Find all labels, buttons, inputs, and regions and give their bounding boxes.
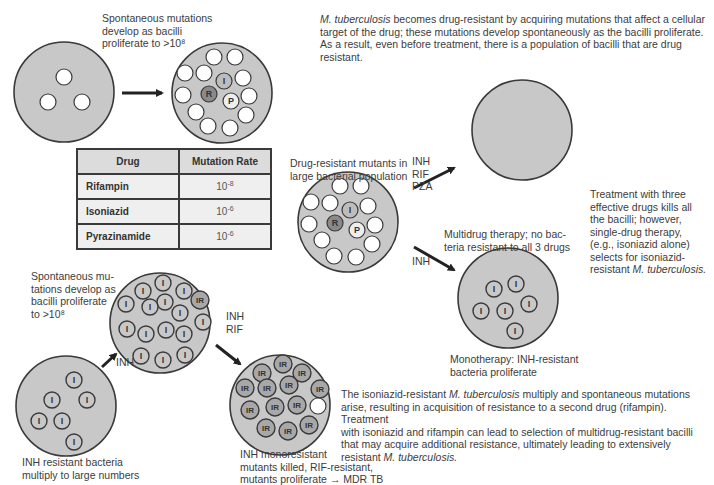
- table-header-rate: Mutation Rate: [179, 149, 271, 174]
- caption-spontaneous-mutations-2: Spontaneous mu- tations develop as bacil…: [31, 270, 116, 320]
- svg-text:I: I: [126, 324, 129, 334]
- svg-text:I: I: [38, 416, 41, 426]
- table-row: Pyrazinamide 10-6: [77, 224, 271, 249]
- svg-text:IR: IR: [196, 296, 204, 305]
- svg-text:I: I: [514, 326, 517, 336]
- svg-text:I: I: [125, 299, 128, 309]
- svg-text:I: I: [504, 306, 507, 316]
- svg-text:R: R: [206, 89, 213, 99]
- svg-text:IR: IR: [293, 401, 301, 410]
- treatment-explanation: Treatment with three effective drugs kil…: [590, 188, 714, 276]
- svg-text:I: I: [179, 308, 182, 318]
- svg-text:I: I: [223, 76, 226, 86]
- label-inh-rif-arrow: INH RIF: [226, 310, 244, 335]
- svg-text:I: I: [183, 329, 186, 339]
- caption-monotherapy: Monotherapy: INH-resistant bacteria prol…: [450, 353, 578, 378]
- table-row: Rifampin 10-8: [77, 174, 271, 199]
- multidrug-result-circle: [472, 80, 572, 180]
- svg-text:IR: IR: [262, 424, 270, 433]
- svg-text:I: I: [183, 286, 186, 296]
- label-monotherapy-drug: INH: [412, 255, 430, 268]
- intro-paragraph: M. tuberculosis becomes drug-resistant b…: [320, 13, 714, 63]
- mdr-explanation-paragraph: The isoniazid-resistant M. tuberculosis …: [341, 388, 714, 463]
- arrow-inh-selection: [102, 354, 116, 367]
- svg-text:IR: IR: [316, 385, 324, 394]
- svg-text:IR: IR: [285, 381, 293, 390]
- svg-text:IR: IR: [246, 406, 254, 415]
- svg-text:I: I: [165, 325, 168, 335]
- svg-text:IR: IR: [279, 360, 287, 369]
- mutation-rate-table: Drug Mutation Rate Rifampin 10-8 Isoniaz…: [76, 148, 272, 250]
- table-row: Isoniazid 10-6: [77, 199, 271, 224]
- svg-text:I: I: [145, 329, 148, 339]
- svg-text:I: I: [61, 416, 64, 426]
- label-multidrug-regimen: INH RIF PZA: [412, 155, 432, 193]
- caption-multidrug-therapy: Multidrug therapy; no bac- teria resista…: [444, 228, 570, 253]
- svg-text:I: I: [73, 375, 76, 385]
- svg-text:I: I: [51, 395, 54, 405]
- svg-text:I: I: [140, 351, 143, 361]
- svg-text:IR: IR: [271, 403, 279, 412]
- svg-text:I: I: [515, 279, 518, 289]
- svg-text:I: I: [202, 317, 205, 327]
- svg-text:IR: IR: [258, 369, 266, 378]
- svg-text:IR: IR: [305, 421, 313, 430]
- bacilli-population-initial: [14, 42, 114, 142]
- svg-text:I: I: [162, 355, 165, 365]
- label-inh-arrow: INH: [116, 356, 134, 369]
- table-header-drug: Drug: [77, 149, 179, 174]
- svg-text:R: R: [332, 218, 339, 228]
- svg-text:I: I: [164, 297, 167, 307]
- svg-text:P: P: [228, 96, 234, 106]
- svg-text:I: I: [528, 299, 531, 309]
- svg-text:IR: IR: [284, 427, 292, 436]
- svg-text:IR: IR: [263, 384, 271, 393]
- svg-text:I: I: [162, 278, 165, 288]
- svg-text:IR: IR: [298, 369, 306, 378]
- svg-text:I: I: [149, 302, 152, 312]
- arrow-inh-rif-selection: [216, 345, 240, 364]
- svg-text:I: I: [142, 286, 145, 296]
- caption-spontaneous-mutations: Spontaneous mutations develop as bacilli…: [102, 12, 212, 50]
- svg-text:I: I: [480, 306, 483, 316]
- svg-text:I: I: [349, 205, 352, 215]
- caption-inh-resistant-bacteria: INH resistant bacteria multiply to large…: [22, 456, 139, 481]
- svg-text:P: P: [354, 225, 360, 235]
- svg-text:IR: IR: [241, 384, 249, 393]
- svg-text:I: I: [184, 350, 187, 360]
- svg-text:I: I: [73, 437, 76, 447]
- caption-drug-resistant-mutants: Drug-resistant mutants in large bacteria…: [290, 157, 407, 182]
- svg-text:I: I: [493, 284, 496, 294]
- svg-text:I: I: [86, 395, 89, 405]
